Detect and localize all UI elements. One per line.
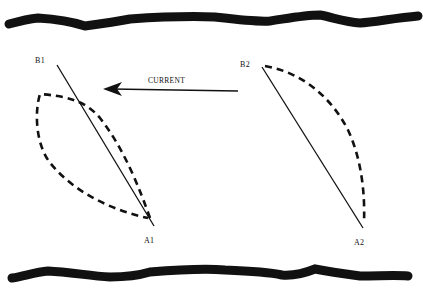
- label-b2: B2: [240, 60, 250, 69]
- diagram-canvas: [0, 0, 423, 300]
- dashed-loop-left: [37, 94, 150, 218]
- bottom-bank-line: [12, 269, 408, 278]
- dashed-curve-right: [265, 66, 364, 222]
- label-a2: A2: [354, 238, 364, 247]
- current-arrow-shaft: [112, 89, 238, 91]
- label-current: CURRENT: [148, 76, 185, 85]
- top-bank-line: [9, 15, 418, 26]
- label-a1: A1: [144, 236, 154, 245]
- label-b1: B1: [35, 56, 45, 65]
- line-b2-a2: [262, 67, 363, 228]
